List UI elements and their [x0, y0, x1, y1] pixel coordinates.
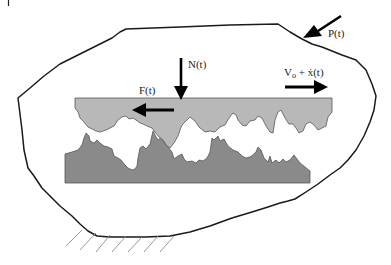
- lower-rough-surface: [65, 131, 310, 183]
- body-outline: [18, 24, 376, 237]
- applied-force-label: P(t): [328, 27, 345, 40]
- contact-diagram: N(t) F(t) Vo + ẋ(t) P(t): [0, 0, 391, 265]
- ground-hatching: [66, 230, 174, 252]
- velocity-arrow: [285, 80, 328, 94]
- friction-force-label: F(t): [139, 84, 156, 97]
- velocity-label: Vo + ẋ(t): [284, 66, 324, 80]
- upper-rough-surface: [75, 98, 332, 148]
- normal-force-label: N(t): [188, 58, 207, 71]
- normal-force-arrow: [174, 58, 188, 100]
